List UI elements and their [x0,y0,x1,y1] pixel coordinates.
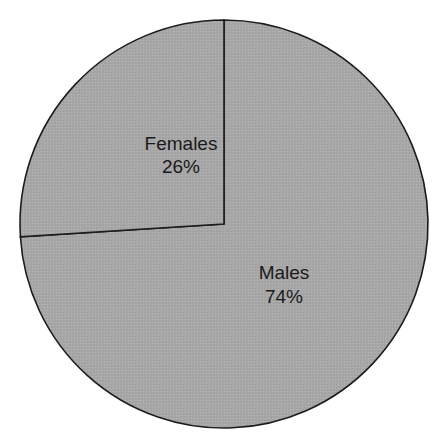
pie-slice-females [20,20,224,237]
pie-chart: Females 26% Males 74% [0,0,441,436]
slice-label-males-name: Males [259,262,310,283]
slice-label-females-name: Females [145,133,218,154]
slice-label-males-value: 74% [265,286,303,307]
slice-label-females-value: 26% [162,156,200,177]
